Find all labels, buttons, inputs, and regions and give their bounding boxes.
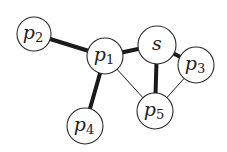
node-label: s [152, 32, 162, 54]
graph-diagram: p2p1sp3p5p4 [0, 0, 227, 152]
node-s: s [138, 26, 176, 64]
node-p1: p1 [87, 38, 123, 74]
node-p3: p3 [178, 47, 214, 83]
nodes-layer: p2p1sp3p5p4 [17, 17, 214, 144]
node-p4: p4 [67, 108, 103, 144]
node-p5: p5 [137, 93, 173, 129]
node-p2: p2 [17, 17, 51, 51]
